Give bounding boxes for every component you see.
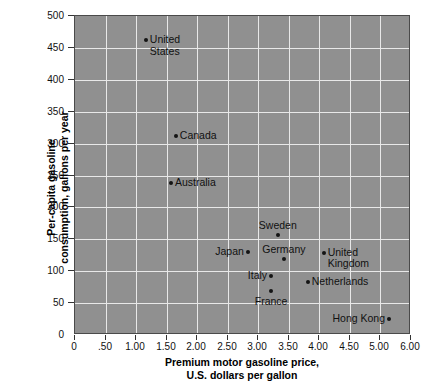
x-tick-label: 3.50 [278,341,297,352]
x-tick-mark [379,335,380,340]
y-tick-label: 500 [28,10,64,21]
data-point-label: Japan [215,246,244,258]
data-point-label-line1: Hong Kong [332,313,385,325]
x-tick-mark [349,335,350,340]
x-tick-label: 4.50 [339,341,358,352]
data-point-label: Netherlands [312,276,369,288]
x-axis-title-line1: Premium motor gasoline price, [74,356,410,369]
x-tick-mark [257,335,258,340]
x-tick-label: 5.00 [369,341,388,352]
data-point [174,134,178,138]
data-point-label-line1: Netherlands [312,276,369,288]
data-point [387,317,391,321]
data-point-label-line2: Kingdom [328,258,369,270]
x-tick-mark [227,335,228,340]
gridline-vertical [258,16,259,333]
x-tick-mark [105,335,106,340]
y-axis-title: Per-capita gasoline consumption, gallons… [45,38,70,338]
gridline-vertical [167,16,168,333]
gridline-horizontal [75,207,409,208]
gridline-horizontal [75,144,409,145]
data-point [282,257,286,261]
x-tick-mark [410,335,411,340]
x-tick-mark [74,335,75,340]
data-point-label-line1: France [255,296,288,308]
x-tick-label: 1.00 [125,341,144,352]
data-point [322,251,326,255]
y-axis-title-line1: Per-capita gasoline [45,38,58,338]
x-tick-mark [166,335,167,340]
data-point-label: Canada [180,130,217,142]
data-point-label-line1: Italy [248,270,267,282]
x-tick-label: 1.50 [156,341,175,352]
x-tick-mark [288,335,289,340]
x-tick-label: 6.00 [400,341,419,352]
data-point [144,38,148,42]
x-tick-label: .50 [98,341,112,352]
data-point [276,233,280,237]
data-point-label: UnitedKingdom [328,247,369,270]
data-point-label-line2: States [150,46,180,58]
data-point-label: Italy [248,270,267,282]
gridline-horizontal [75,271,409,272]
scatter-plot-figure: UnitedStatesCanadaAustraliaSwedenJapanGe… [0,0,432,382]
data-point [269,289,273,293]
x-tick-mark [196,335,197,340]
x-tick-label: 2.50 [217,341,236,352]
data-point-label-line1: Japan [215,246,244,258]
x-tick-mark [135,335,136,340]
gridline-horizontal [75,48,409,49]
y-axis-title-line2: consumption, gallons per year [57,38,70,338]
x-axis-title-line2: U.S. dollars per gallon [74,369,410,382]
data-point [246,250,250,254]
data-point-label-line1: United [150,34,180,46]
gridline-vertical [136,16,137,333]
gridline-vertical [228,16,229,333]
gridline-vertical [197,16,198,333]
x-tick-mark [318,335,319,340]
data-point-label: Hong Kong [332,313,385,325]
gridline-horizontal [75,112,409,113]
data-point-label: Australia [175,177,216,189]
x-tick-label: 2.00 [186,341,205,352]
gridline-horizontal [75,176,409,177]
data-point-label-line1: Germany [262,244,305,256]
data-point [306,280,310,284]
gridline-vertical [106,16,107,333]
data-point [269,274,273,278]
data-point-label: UnitedStates [150,34,180,57]
data-point-label: Sweden [259,220,297,232]
x-tick-label: 4.00 [308,341,327,352]
data-point-label: Germany [262,244,305,256]
data-point-label: France [255,296,288,308]
gridline-horizontal [75,303,409,304]
data-point-label-line1: Sweden [259,220,297,232]
gridline-horizontal [75,239,409,240]
x-axis-title: Premium motor gasoline price, U.S. dolla… [74,356,410,381]
x-tick-label: 0 [71,341,77,352]
data-point [169,181,173,185]
data-point-label-line1: Australia [175,177,216,189]
plot-area: UnitedStatesCanadaAustraliaSwedenJapanGe… [74,15,410,334]
y-tick-mark [68,15,74,16]
gridline-horizontal [75,80,409,81]
data-point-label-line1: Canada [180,130,217,142]
gridline-vertical [289,16,290,333]
gridline-vertical [380,16,381,333]
x-tick-label: 3.00 [247,341,266,352]
